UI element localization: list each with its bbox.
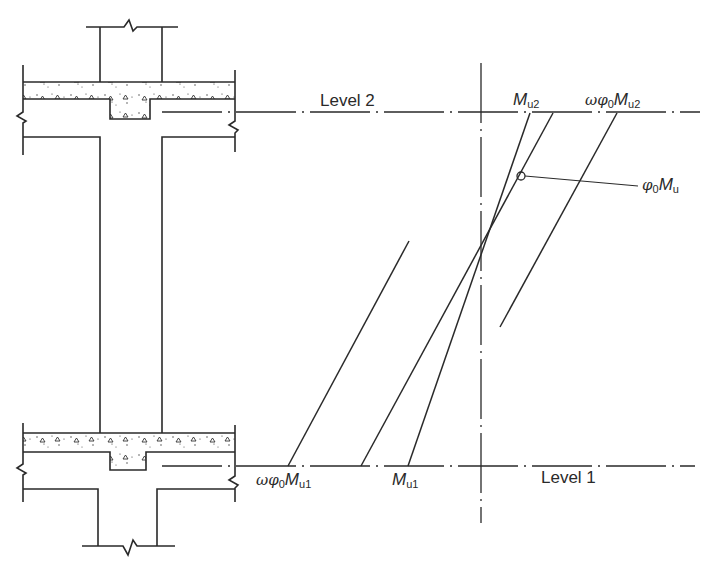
- centerlines: [162, 63, 700, 523]
- m-symbol: M: [659, 175, 673, 194]
- omega-phi0-mu1-label: ωφ0Mu1: [256, 471, 311, 488]
- phi0-mu-label: φ0Mu: [642, 176, 679, 193]
- mu2-subscript: u2: [628, 98, 640, 110]
- mu-subscript: u: [673, 183, 679, 195]
- m-symbol: M: [614, 90, 628, 109]
- mu2-subscript: u2: [527, 98, 539, 110]
- omega-phi0-mu1-line: [288, 241, 409, 466]
- moment-lines: [288, 113, 638, 466]
- mu-line: [408, 113, 530, 466]
- mu2-symbol: M: [513, 90, 527, 109]
- structure-section: [17, 20, 238, 555]
- level-1-slab: [17, 423, 238, 555]
- m-symbol: M: [285, 470, 299, 489]
- level-1-label: Level 1: [541, 469, 596, 486]
- phi-subscript: 0: [653, 183, 659, 195]
- mu2-label: Mu2: [513, 91, 539, 108]
- omega-phi0-mu2-label: ωφ0Mu2: [585, 91, 640, 108]
- omega-phi0-mu2-line: [500, 113, 617, 327]
- mu1-label: Mu1: [392, 471, 418, 488]
- phi-symbol: φ: [642, 176, 653, 194]
- upper-column-stub: [86, 20, 178, 82]
- phi-subscript: 0: [279, 478, 285, 490]
- phi-subscript: 0: [608, 98, 614, 110]
- mu1-symbol: M: [392, 470, 406, 489]
- omega-phi-symbol: ωφ: [256, 471, 279, 489]
- diagram-canvas: [0, 0, 718, 574]
- omega-phi-symbol: ωφ: [585, 91, 608, 109]
- level-2-label: Level 2: [320, 92, 375, 109]
- phi0-mu-line: [361, 113, 553, 466]
- level-2-slab: [17, 65, 238, 433]
- mu1-subscript: u1: [299, 478, 311, 490]
- mu1-subscript: u1: [406, 478, 418, 490]
